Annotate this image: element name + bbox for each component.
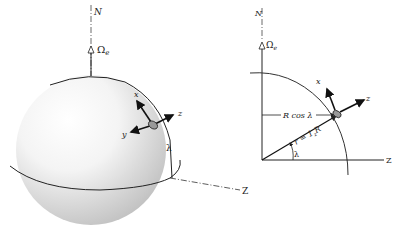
left-x-label: x	[134, 90, 139, 99]
right-Z-label: Z	[386, 156, 392, 165]
right-x-axis-arrow	[327, 89, 335, 110]
right-z-axis-arrow	[340, 100, 364, 112]
left-omega-label: Ωe	[97, 44, 109, 57]
Z-axis	[170, 178, 240, 190]
lambda-angle-arc	[290, 143, 293, 160]
radius-label: r = 1zR	[293, 124, 323, 147]
right-lambda-label: λ	[294, 150, 299, 159]
omega-arrow-icon	[88, 46, 94, 53]
right-omega-arrow-icon	[259, 42, 265, 49]
earth-sphere	[16, 75, 166, 225]
right-z-label: z	[365, 94, 371, 103]
left-lambda-label: λ	[166, 143, 172, 153]
left-north-label: N	[93, 7, 103, 17]
right-section-figure: N Ωe x z R cos λ r = 1zR λ Z	[250, 8, 392, 175]
rcos-label: R cos λ	[282, 111, 313, 120]
left-Z-label: Z	[242, 186, 248, 196]
left-sphere-figure: N Ωe x z y λ Z	[10, 5, 248, 225]
left-y-label: y	[121, 130, 127, 139]
right-omega-label: Ωe	[266, 40, 277, 51]
left-z-label: z	[177, 109, 183, 118]
right-north-label: N	[254, 9, 263, 18]
right-x-label: x	[316, 77, 321, 86]
